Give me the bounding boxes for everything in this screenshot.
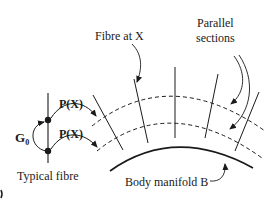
parallel-sections-label-line1: Parallel	[197, 16, 234, 30]
fibre-line-5	[235, 92, 259, 151]
fibre-at-x-arrow-icon	[132, 44, 141, 82]
px-upper-label: P(X)	[59, 97, 83, 111]
fibre-line-4	[205, 74, 218, 138]
typical-fibre-label: Typical fibre	[17, 169, 78, 183]
parallel-section-upper	[92, 96, 265, 131]
fibre-line-1	[93, 95, 123, 150]
g0-label: G0	[15, 130, 29, 147]
fibre-bundle-diagram: G0 P(X) P(X) Fibre at X Parallel section…	[0, 0, 277, 204]
fibre-at-x-label: Fibre at X	[95, 29, 144, 43]
fibre-at-x-line	[134, 79, 148, 143]
px-lower-label: P(X)	[59, 127, 83, 141]
parallel-sections-arrow-upper-icon	[231, 56, 243, 104]
body-manifold-arrow-icon	[210, 164, 225, 181]
parallel-section-lower	[97, 123, 262, 158]
parallel-sections-label-line2: sections	[196, 31, 235, 45]
body-manifold-curve	[110, 147, 253, 171]
g0-arrow-icon	[33, 122, 46, 151]
corner-mark	[1, 190, 2, 198]
body-manifold-label: Body manifold B	[125, 175, 208, 189]
fibre-point-upper	[45, 117, 51, 123]
